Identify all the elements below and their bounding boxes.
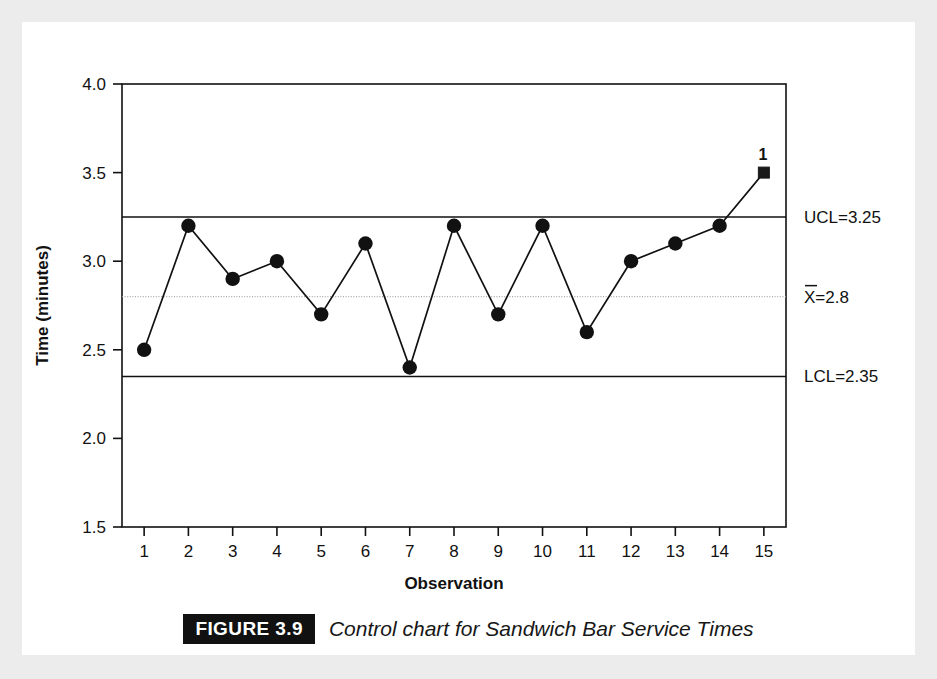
x-axis-tick-label: 9 bbox=[494, 542, 503, 561]
data-point bbox=[712, 219, 726, 233]
y-axis-tick-label: 2.0 bbox=[82, 429, 106, 448]
control-limit-label-LCL: LCL=2.35 bbox=[804, 367, 878, 386]
x-axis-title: Observation bbox=[404, 574, 503, 593]
figure-number-badge: FIGURE 3.9 bbox=[183, 614, 314, 644]
data-point bbox=[358, 236, 372, 250]
control-chart: 4.03.53.02.52.01.5123456789101112131415O… bbox=[0, 0, 937, 679]
data-line bbox=[144, 173, 764, 368]
y-axis-tick-label: 2.5 bbox=[82, 341, 106, 360]
figure-caption-row: FIGURE 3.9 Control chart for Sandwich Ba… bbox=[0, 614, 937, 644]
data-point bbox=[181, 219, 195, 233]
x-axis-tick-label: 12 bbox=[622, 542, 641, 561]
x-axis-tick-label: 10 bbox=[533, 542, 552, 561]
data-point bbox=[270, 254, 284, 268]
control-limit-label-center: X=2.8 bbox=[804, 288, 849, 307]
y-axis-tick-label: 4.0 bbox=[82, 75, 106, 94]
data-point bbox=[624, 254, 638, 268]
y-axis-title: Time (minutes) bbox=[33, 245, 52, 366]
x-axis-tick-label: 8 bbox=[449, 542, 458, 561]
y-axis-tick-label: 3.5 bbox=[82, 164, 106, 183]
data-point bbox=[137, 343, 151, 357]
x-axis-tick-label: 6 bbox=[361, 542, 370, 561]
data-point bbox=[314, 307, 328, 321]
x-axis-tick-label: 1 bbox=[139, 542, 148, 561]
x-axis-tick-label: 13 bbox=[666, 542, 685, 561]
data-point bbox=[447, 219, 461, 233]
data-point bbox=[668, 236, 682, 250]
data-point bbox=[535, 219, 549, 233]
data-point bbox=[580, 325, 594, 339]
control-limit-label-UCL: UCL=3.25 bbox=[804, 208, 881, 227]
x-axis-tick-label: 4 bbox=[272, 542, 281, 561]
data-point-violation bbox=[758, 167, 769, 178]
figure-caption-text: Control chart for Sandwich Bar Service T… bbox=[329, 617, 754, 641]
y-axis-tick-label: 3.0 bbox=[82, 252, 106, 271]
y-axis-tick-label: 1.5 bbox=[82, 518, 106, 537]
x-axis-tick-label: 15 bbox=[754, 542, 773, 561]
page-background: 4.03.53.02.52.01.5123456789101112131415O… bbox=[0, 0, 937, 679]
x-axis-tick-label: 3 bbox=[228, 542, 237, 561]
x-axis-tick-label: 14 bbox=[710, 542, 729, 561]
data-point bbox=[225, 272, 239, 286]
plot-frame bbox=[122, 84, 786, 527]
figure-container: 4.03.53.02.52.01.5123456789101112131415O… bbox=[0, 0, 937, 679]
x-axis-tick-label: 2 bbox=[184, 542, 193, 561]
data-point bbox=[403, 360, 417, 374]
x-axis-tick-label: 11 bbox=[578, 542, 596, 561]
x-axis-tick-label: 7 bbox=[405, 542, 414, 561]
data-point bbox=[491, 307, 505, 321]
x-axis-tick-label: 5 bbox=[316, 542, 325, 561]
violation-rule-label: 1 bbox=[758, 146, 767, 163]
